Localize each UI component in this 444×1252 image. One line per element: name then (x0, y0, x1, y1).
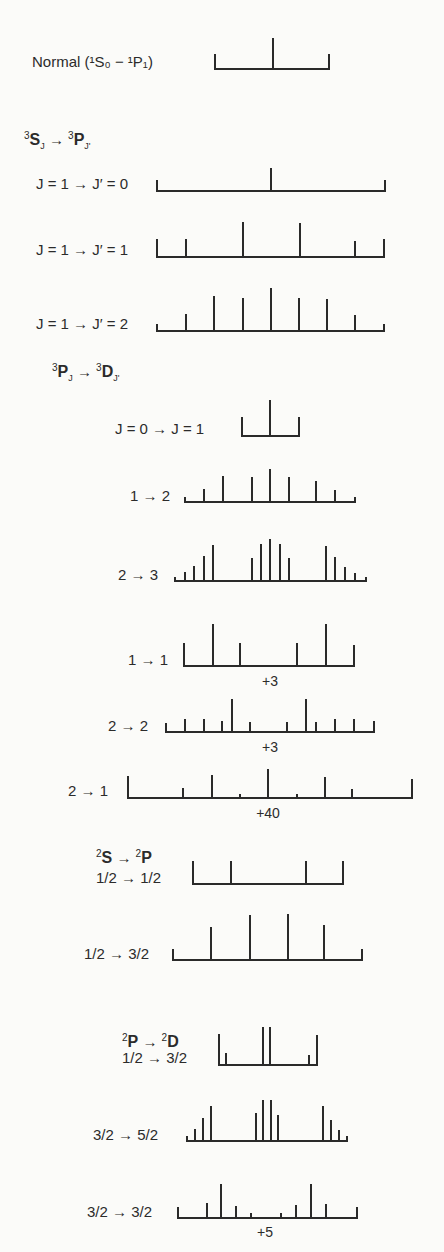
pattern-p-d-0-1 (242, 401, 299, 436)
transition-header-triplet-s-p: 3SJ → 3PJ' (24, 128, 91, 154)
header-sub_b: J' (84, 141, 90, 151)
pattern-p-d-2-1 (128, 770, 412, 798)
pattern-label: 1/2 → 3/2 (84, 946, 149, 962)
offset-note: +5 (257, 1225, 273, 1239)
transition-header-triplet-p-d: 3PJ → 3DJ' (52, 360, 119, 386)
pattern-p-d-threehalf-threehalf (178, 1185, 357, 1218)
header-sub_b: J' (113, 373, 119, 383)
pattern-label: 1/2 → 1/2 (96, 870, 161, 886)
transition-header-doublet-s-p: 2S → 2P (96, 846, 152, 866)
pattern-label: 2 → 2 (108, 718, 148, 734)
pattern-p-d-1-1 (184, 625, 354, 666)
pattern-p-d-2-3 (175, 540, 366, 581)
pattern-label: J = 1 → J′ = 1 (36, 242, 128, 258)
header-term_b: D (167, 1033, 179, 1050)
pattern-label: 1 → 1 (128, 652, 168, 668)
header-term_a: S (30, 131, 41, 148)
pattern-label: 2 → 1 (68, 783, 108, 799)
pattern-s-p-half-half (193, 862, 343, 884)
pattern-normal (215, 39, 329, 69)
header-term_a: S (102, 849, 113, 866)
pattern-label: J = 1 → J′ = 2 (36, 316, 128, 332)
pattern-label: 3/2 → 3/2 (87, 1204, 152, 1220)
pattern-p-d-half-threehalf (219, 1028, 317, 1065)
offset-note: +3 (262, 740, 278, 754)
pattern-label: J = 1 → J′ = 0 (36, 176, 128, 192)
header-term_b: P (74, 131, 85, 148)
pattern-s-p-1-1 (157, 223, 384, 257)
pattern-p-d-1-2 (185, 470, 355, 502)
pattern-p-d-2-2 (166, 700, 374, 732)
pattern-s-p-1-0 (157, 169, 385, 191)
pattern-s-p-1-2 (157, 289, 384, 331)
offset-note: +3 (262, 674, 278, 688)
header-arrow: → (45, 131, 68, 148)
pattern-label: 2 → 3 (118, 567, 158, 583)
header-term_b: D (102, 363, 114, 380)
header-term_b: P (141, 849, 152, 866)
header-term_a: P (58, 363, 69, 380)
pattern-s-p-half-threehalf (173, 915, 362, 960)
header-arrow: → (112, 849, 135, 866)
pattern-label: 1 → 2 (130, 488, 170, 504)
pattern-label: J = 0 → J = 1 (115, 421, 204, 437)
transition-header-doublet-p-d: 2P → 2D (122, 1030, 179, 1050)
pattern-label: 1/2 → 3/2 (122, 1050, 187, 1066)
pattern-label: 3/2 → 5/2 (93, 1127, 158, 1143)
pattern-p-d-threehalf-fivehalf (187, 1101, 347, 1141)
offset-note: +40 (256, 806, 280, 820)
pattern-label: Normal (¹S₀ − ¹P₁) (32, 54, 153, 70)
header-arrow: → (138, 1033, 161, 1050)
header-arrow: → (73, 363, 96, 380)
header-term_a: P (128, 1033, 139, 1050)
